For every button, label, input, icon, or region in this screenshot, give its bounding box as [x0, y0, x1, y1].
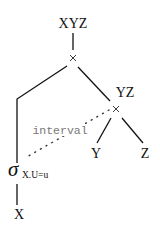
leaf-y-label: Y	[91, 146, 101, 161]
selection-sigma-symbol: σ	[8, 157, 20, 181]
leaf-z-label: Z	[141, 146, 150, 161]
right-cross-product-icon	[113, 106, 119, 112]
selection-predicate: X.U=u	[22, 170, 48, 180]
leaf-x-label: X	[14, 207, 24, 222]
root-label: XYZ	[59, 16, 88, 31]
left-branch-edge	[17, 66, 67, 163]
right-node-label: YZ	[116, 85, 135, 100]
right-branch-edge	[78, 67, 110, 101]
edge-to-y	[97, 118, 111, 143]
root-cross-product-icon	[70, 55, 76, 61]
interval-label: interval	[32, 124, 87, 137]
query-plan-diagram: XYZ YZ Y Z interval σ X.U=u X	[0, 0, 160, 238]
edge-to-z	[122, 118, 143, 143]
